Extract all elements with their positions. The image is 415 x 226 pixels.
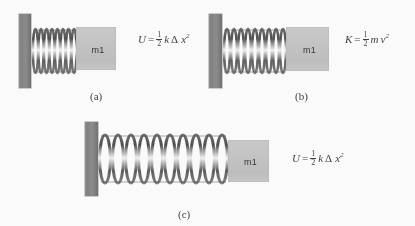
wall-c — [85, 122, 98, 196]
caption-b: (b) — [295, 90, 308, 102]
equation-b-equals: = — [354, 34, 360, 45]
panel-c: m1 U = 1 2 k Δ x 2 (c) — [0, 110, 415, 226]
caption-c: (c) — [178, 208, 190, 220]
equation-b-coefficient: m — [371, 34, 379, 45]
equation-c-numerator: 1 — [310, 150, 316, 158]
equation-a-exponent: 2 — [186, 33, 190, 40]
mass-block-c: m1 — [228, 140, 269, 182]
equation-b-lhs: K — [345, 34, 352, 45]
equation-c-coefficient: k — [318, 153, 323, 164]
caption-a: (a) — [90, 90, 102, 102]
spring-c — [98, 132, 230, 186]
equation-b: K = 1 2 m v 2 — [345, 31, 389, 48]
mass-label-a: m1 — [92, 45, 105, 55]
equation-a-numerator: 1 — [156, 31, 162, 39]
mass-block-b: m1 — [286, 27, 329, 71]
equation-c-lhs: U — [292, 153, 300, 164]
panel-a: m1 U = 1 2 k Δ x 2 (a) — [0, 0, 205, 110]
equation-c-fraction: 1 2 — [310, 150, 316, 167]
equation-b-denominator: 2 — [363, 39, 369, 48]
spring-a — [31, 26, 78, 76]
equation-b-exponent: 2 — [385, 33, 389, 40]
spring-b — [222, 26, 288, 76]
mass-label-b: m1 — [303, 45, 316, 55]
equation-c-denominator: 2 — [310, 158, 316, 167]
wall-a — [19, 14, 31, 88]
wall-b — [209, 14, 222, 88]
equation-a-equals: = — [148, 34, 154, 45]
equation-b-numerator: 1 — [363, 31, 369, 39]
equation-a: U = 1 2 k Δ x 2 — [138, 31, 190, 48]
equation-a-lhs: U — [138, 34, 146, 45]
mass-label-c: m1 — [244, 157, 257, 167]
equation-c-exponent: 2 — [340, 152, 344, 159]
equation-a-coefficient: k — [164, 34, 169, 45]
equation-c-equals: = — [302, 153, 308, 164]
mass-block-a: m1 — [76, 27, 116, 70]
equation-c: U = 1 2 k Δ x 2 — [292, 150, 344, 167]
equation-a-delta: Δ — [171, 34, 178, 45]
spring-mass-figure: m1 U = 1 2 k Δ x 2 (a) — [0, 0, 415, 226]
panel-b: m1 K = 1 2 m v 2 (b) — [205, 0, 415, 110]
equation-c-delta: Δ — [325, 153, 332, 164]
equation-b-fraction: 1 2 — [363, 31, 369, 48]
equation-a-fraction: 1 2 — [156, 31, 162, 48]
equation-a-denominator: 2 — [156, 39, 162, 48]
